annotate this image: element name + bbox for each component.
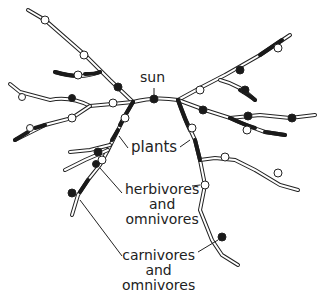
label-carnivores-line1: carnivores — [122, 248, 195, 263]
label-herbivores-line2: and — [125, 197, 199, 212]
label-herbivores-line1: herbivores — [125, 182, 199, 197]
label-herbivores: herbivores and omnivores — [125, 182, 199, 227]
label-carnivores: carnivores and omnivores — [122, 248, 195, 293]
label-carnivores-line2: and — [122, 263, 195, 278]
label-sun: sun — [140, 70, 165, 85]
leader-lines — [80, 88, 218, 256]
label-carnivores-line3: omnivores — [122, 278, 195, 293]
label-plants: plants — [131, 140, 177, 155]
label-herbivores-line3: omnivores — [125, 212, 199, 227]
